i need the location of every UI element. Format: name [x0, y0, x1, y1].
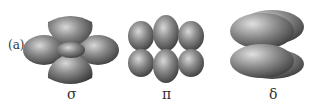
delta-label: δ [269, 86, 277, 102]
pi-orbital [128, 15, 204, 83]
sigma-orbital [23, 16, 119, 84]
pi-label: π [162, 86, 171, 102]
sigma-label: σ [67, 86, 77, 102]
delta-orbital [230, 10, 304, 79]
